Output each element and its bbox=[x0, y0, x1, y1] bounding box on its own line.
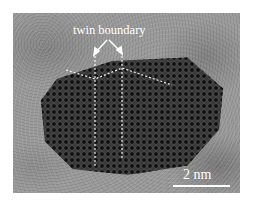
twin-boundary-label: twin boundary bbox=[73, 23, 146, 38]
scale-bar bbox=[173, 185, 230, 187]
lattice-plane-trace bbox=[66, 68, 172, 85]
scale-bar-label: 2 nm bbox=[183, 167, 211, 183]
